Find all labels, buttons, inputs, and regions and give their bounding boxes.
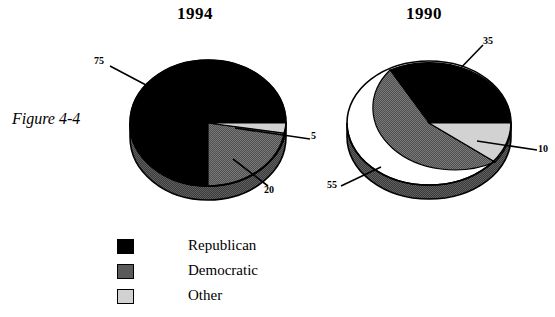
pie-chart-1994-svg — [128, 52, 292, 202]
value-label-1990-democratic: 55 — [327, 180, 337, 190]
legend-item-democratic: Democratic — [117, 261, 357, 286]
legend-swatch-republican-icon — [117, 239, 134, 254]
legend-swatch-other-icon — [117, 289, 134, 304]
pie-chart-1994 — [128, 52, 292, 202]
figure-container: 1994 1990 Figure 4-4 — [0, 0, 555, 317]
legend: Republican Democratic Other — [117, 236, 357, 311]
figure-caption: Figure 4-4 — [12, 110, 80, 128]
chart-title-1990: 1990 — [406, 5, 442, 22]
value-label-1990-republican: 35 — [483, 36, 493, 46]
legend-item-republican: Republican — [117, 236, 357, 261]
value-label-1994-democratic: 20 — [264, 185, 274, 195]
legend-label-other: Other — [188, 286, 222, 305]
legend-label-democratic: Democratic — [188, 261, 258, 280]
legend-label-republican: Republican — [188, 236, 256, 255]
value-label-1990-other: 10 — [538, 144, 548, 154]
legend-swatch-democratic-icon — [117, 264, 134, 279]
value-label-1994-other: 5 — [311, 131, 316, 141]
pie-chart-1990 — [343, 55, 515, 200]
legend-item-other: Other — [117, 286, 357, 311]
pie-1994-slice-democratic — [208, 123, 284, 186]
chart-title-1994: 1994 — [177, 5, 213, 22]
value-label-1994-republican: 75 — [94, 56, 104, 66]
pie-chart-1990-svg — [343, 55, 515, 200]
